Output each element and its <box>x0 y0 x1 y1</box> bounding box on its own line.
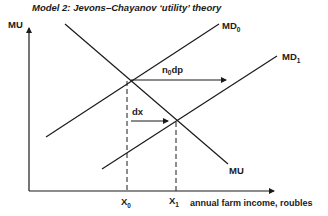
y-axis-label: MU <box>8 19 23 30</box>
md0-curve-label: MD0 <box>222 20 241 33</box>
x1-label: X1 <box>169 195 179 208</box>
x-axis-label: annual farm income, roubles <box>190 198 313 208</box>
mu-curve-label: MU <box>229 165 244 176</box>
diagram-canvas: MU annual farm income, roubles MU MD0 MD… <box>0 0 328 216</box>
shift-arrow-label: n0dp <box>162 64 183 76</box>
mu-curve <box>65 24 228 164</box>
x0-label: X0 <box>121 196 131 209</box>
dx-arrow-label: dx <box>132 106 144 117</box>
md1-curve-label: MD1 <box>282 51 301 64</box>
md1-curve <box>102 56 277 169</box>
